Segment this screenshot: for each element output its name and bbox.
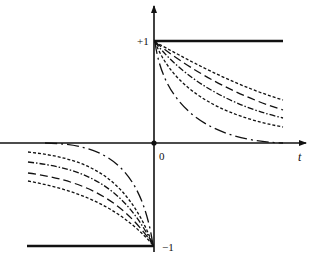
lower-curve-2 <box>28 162 153 245</box>
plus-one-label: +1 <box>137 35 149 47</box>
lower-curve-4 <box>28 181 153 245</box>
origin-dot <box>151 140 156 145</box>
t-axis-label: t <box>298 150 302 164</box>
lower-curve-3 <box>28 173 153 245</box>
origin-label: 0 <box>159 150 165 162</box>
step-response-diagram: +1 0 −1 t <box>0 0 322 263</box>
lower-curve-1 <box>28 152 153 245</box>
upper-curve-1 <box>155 42 283 100</box>
upper-curve-3 <box>155 42 283 118</box>
upper-curve-5 <box>155 42 283 143</box>
minus-one-label: −1 <box>162 241 174 253</box>
upper-curve-4 <box>155 42 283 127</box>
